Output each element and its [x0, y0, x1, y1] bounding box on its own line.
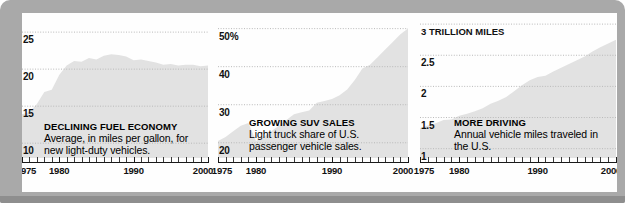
caption-title: MORE DRIVING [454, 117, 604, 128]
x-axis-labels: 1975198019902000 [22, 165, 208, 177]
x-axis-tick [408, 157, 409, 163]
y-axis-tick-label: 10 [23, 146, 34, 156]
y-axis-tick-label: 2.5 [421, 58, 434, 68]
y-axis-tick-label: 20 [219, 146, 230, 156]
x-axis-tick-label: 1980 [449, 165, 469, 176]
y-axis-tick-label: 3 TRILLION MILES [421, 27, 504, 37]
x-axis-tick [616, 157, 617, 163]
x-axis-tick-label: 1975 [22, 165, 36, 176]
x-axis-tick-label: 1990 [527, 165, 547, 176]
y-axis-tick-label: 30 [219, 108, 230, 118]
x-axis-tick-label: 2000 [601, 165, 617, 176]
caption-title: GROWING SUV SALES [249, 117, 399, 128]
x-axis-fuel-economy: 1975198019902000 [22, 156, 208, 176]
x-axis-tick-label: 1975 [212, 165, 232, 176]
infographic-plate: 25201510 1975198019902000 DECLINING FUEL… [22, 13, 617, 192]
caption-title: DECLINING FUEL ECONOMY [44, 121, 194, 132]
chart-panel-suv-sales: 50%403020 1975198019902000 GROWING SUV S… [218, 13, 408, 192]
x-axis-line [420, 162, 616, 163]
panel-caption-fuel-economy: DECLINING FUEL ECONOMY Average, in miles… [44, 121, 194, 156]
x-axis-tick-label: 2000 [393, 165, 413, 176]
x-axis-tick-label: 1990 [123, 165, 143, 176]
y-axis-tick-label: 1.5 [421, 121, 434, 131]
x-axis-labels: 1975198019902000 [420, 165, 616, 177]
x-axis-line [22, 162, 208, 163]
infographic-figure: 25201510 1975198019902000 DECLINING FUEL… [0, 0, 625, 203]
x-axis-tick-label: 2000 [193, 165, 213, 176]
y-axis-tick-label: 2 [421, 89, 426, 99]
caption-body: Average, in miles per gallon, for new li… [44, 133, 194, 156]
caption-body: Annual vehicle miles traveled in the U.S… [454, 129, 604, 152]
y-axis-tick-label: 25 [23, 35, 34, 45]
y-axis-tick-label: 20 [23, 72, 34, 82]
x-axis-more-driving: 1975198019902000 [420, 156, 616, 176]
x-axis-line [218, 162, 408, 163]
x-axis-tick-label: 1980 [49, 165, 69, 176]
panel-caption-suv-sales: GROWING SUV SALES Light truck share of U… [249, 117, 399, 152]
x-axis-tick [208, 157, 209, 163]
x-axis-tick-label: 1990 [322, 165, 342, 176]
y-axis-tick-label: 50% [219, 32, 238, 42]
caption-body: Light truck share of U.S. passenger vehi… [249, 129, 399, 152]
panel-caption-more-driving: MORE DRIVING Annual vehicle miles travel… [454, 117, 604, 152]
chart-panel-more-driving: 3 TRILLION MILES2.521.51 197519801990200… [420, 13, 616, 192]
x-axis-tick-label: 1980 [246, 165, 266, 176]
x-axis-suv-sales: 1975198019902000 [218, 156, 408, 176]
x-axis-labels: 1975198019902000 [218, 165, 408, 177]
chart-panel-fuel-economy: 25201510 1975198019902000 DECLINING FUEL… [22, 13, 208, 192]
y-axis-tick-label: 15 [23, 109, 34, 119]
x-axis-tick-label: 1975 [414, 165, 434, 176]
y-axis-tick-label: 40 [219, 70, 230, 80]
